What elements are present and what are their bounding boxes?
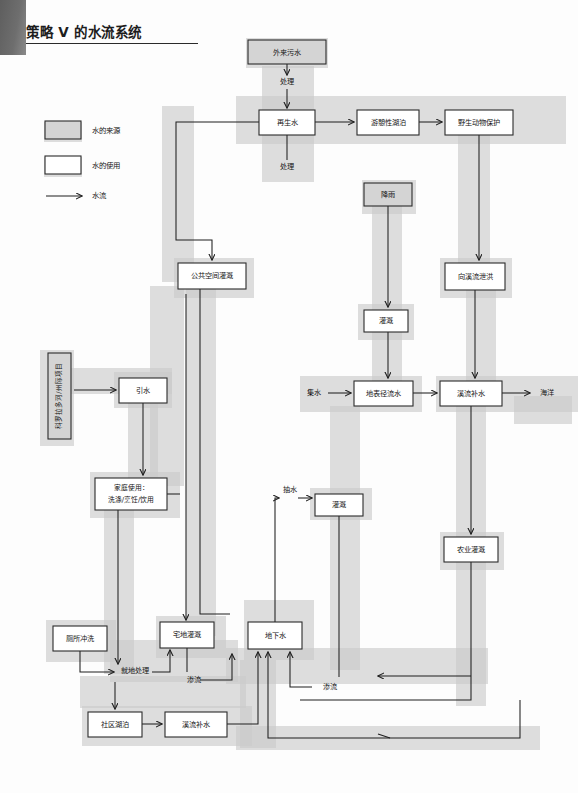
- node-imported-wastewater[interactable]: 外来污水: [248, 40, 326, 64]
- node-label-pumping: 抽水: [283, 485, 297, 494]
- node-label-line1: 家庭使用：: [114, 483, 149, 492]
- node-recycled-water[interactable]: 再生水: [259, 110, 315, 135]
- node-label-line2: 洗涤/烹饪/饮用: [108, 495, 155, 504]
- legend-swatch-use: [45, 156, 81, 174]
- node-label-seepage-right: 渗流: [323, 682, 337, 691]
- node-label: 降雨: [381, 190, 395, 199]
- node-label: 溪流补水: [457, 389, 485, 398]
- node-diversion[interactable]: 引水: [119, 378, 167, 403]
- node-irrigation-rainfed[interactable]: 灌溉: [364, 310, 408, 332]
- edge-label-treatment-top: 处理: [280, 77, 294, 86]
- node-colorado-interstate-project[interactable]: 科罗拉多河/州际项目: [48, 353, 71, 439]
- node-stream-replenishment-top[interactable]: 溪流补水: [440, 381, 502, 406]
- legend-label-use: 水的使用: [92, 161, 120, 170]
- node-agricultural-irrigation[interactable]: 农业灌溉: [444, 537, 498, 562]
- node-label: 再生水: [277, 118, 298, 127]
- node-label: 宅地灌溉: [173, 630, 201, 639]
- node-label: 地下水: [265, 631, 286, 640]
- node-label-ocean: 海洋: [540, 388, 554, 397]
- node-label: 外来污水: [273, 48, 301, 57]
- node-label: 地表径流水: [366, 389, 401, 398]
- node-household-use[interactable]: 家庭使用： 洗涤/烹饪/饮用: [95, 478, 167, 510]
- node-rainfall[interactable]: 降雨: [364, 183, 412, 206]
- node-label: 引水: [136, 386, 150, 395]
- node-label: 灌溉: [332, 500, 346, 509]
- node-groundwater[interactable]: 地下水: [248, 622, 302, 649]
- node-stream-replenishment-bottom[interactable]: 溪流补水: [165, 712, 227, 737]
- node-label-onsite-treatment: 就地处理: [121, 666, 149, 675]
- legend-label-source: 水的来源: [92, 126, 121, 135]
- node-label: 灌溉: [379, 316, 393, 325]
- legend-swatch-source: [45, 121, 81, 139]
- diagram-page: 策略 V 的水流系统: [0, 0, 578, 793]
- node-surface-runoff[interactable]: 地表径流水: [354, 381, 413, 406]
- node-flood-discharge-to-stream[interactable]: 向溪流泄洪: [445, 263, 505, 290]
- node-label: 游憩性湖泊: [371, 118, 406, 127]
- node-homestead-irrigation[interactable]: 宅地灌溉: [160, 622, 214, 648]
- node-community-lake[interactable]: 社区湖泊: [88, 712, 142, 737]
- node-label: 厕所冲洗: [66, 634, 94, 643]
- legend-label-flow: 水流: [92, 191, 107, 200]
- node-label: 溪流补水: [182, 720, 210, 729]
- water-flow-diagram: 外来污水 处理 再生水 处理 游憩性湖泊 野生动物保护 降雨: [0, 0, 578, 793]
- node-label: 社区湖泊: [101, 720, 129, 729]
- node-label: 向溪流泄洪: [458, 272, 493, 281]
- node-label-collection: 集水: [307, 388, 321, 397]
- node-public-space-irrigation[interactable]: 公共空间灌溉: [178, 263, 246, 289]
- node-wildlife-protection[interactable]: 野生动物保护: [445, 110, 513, 135]
- node-label-seepage-left: 渗流: [187, 675, 201, 684]
- node-label: 野生动物保护: [458, 118, 500, 127]
- node-label: 科罗拉多河/州际项目: [54, 363, 63, 428]
- node-toilet-flushing[interactable]: 厕所冲洗: [53, 626, 107, 651]
- edge-label-treatment-bottom: 处理: [280, 162, 294, 171]
- node-recreational-lakes[interactable]: 游憩性湖泊: [357, 110, 419, 135]
- node-irrigation-pumped[interactable]: 灌溉: [315, 494, 363, 516]
- legend: 水的来源 水的使用 水流: [44, 121, 121, 200]
- node-label: 公共空间灌溉: [191, 271, 233, 280]
- node-label: 农业灌溉: [457, 545, 485, 554]
